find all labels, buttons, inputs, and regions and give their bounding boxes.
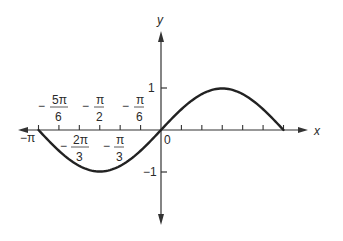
- svg-text:2: 2: [96, 110, 103, 124]
- x-tick-label-neg-5pi-6: − 5π 6: [38, 93, 68, 124]
- svg-text:−: −: [38, 99, 45, 113]
- y-axis-label: y: [156, 13, 164, 27]
- svg-text:π: π: [136, 93, 144, 107]
- svg-text:−: −: [82, 99, 89, 113]
- x-tick-label-neg-pi-6: − π 6: [122, 93, 144, 124]
- svg-text:5π: 5π: [52, 93, 67, 107]
- svg-text:3: 3: [116, 150, 123, 164]
- svg-text:−: −: [122, 99, 129, 113]
- sine-graph: y x 0 1 −1 − 5π 6 − π 2 − π 6 −π − 2π 3 …: [0, 0, 343, 241]
- svg-text:−: −: [60, 139, 67, 153]
- x-axis-label: x: [313, 124, 321, 138]
- svg-text:π: π: [96, 93, 104, 107]
- svg-text:π: π: [116, 133, 124, 147]
- x-tick-label-neg-pi-2: − π 2: [82, 93, 104, 124]
- y-tick-label-1: 1: [148, 81, 155, 95]
- x-axis-right-arrow-icon: [298, 127, 308, 133]
- origin-label: 0: [164, 133, 171, 147]
- x-tick-label-neg-pi-3: − π 3: [103, 133, 124, 164]
- y-axis-down-arrow-icon: [158, 214, 164, 225]
- y-tick-label-neg1: −1: [143, 165, 157, 179]
- svg-text:6: 6: [55, 110, 62, 124]
- svg-text:6: 6: [136, 110, 143, 124]
- y-axis-up-arrow-icon: [158, 31, 164, 42]
- svg-text:3: 3: [76, 150, 83, 164]
- x-tick-label-neg-2pi-3: − 2π 3: [60, 133, 89, 164]
- svg-text:2π: 2π: [73, 133, 88, 147]
- x-tick-label-neg-pi: −π: [20, 131, 35, 145]
- svg-text:−: −: [103, 139, 110, 153]
